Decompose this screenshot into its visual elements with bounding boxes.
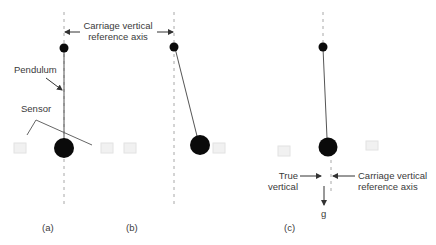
true-vertical-line2: vertical xyxy=(258,181,298,192)
sensor-label: Sensor xyxy=(21,103,51,114)
pendulum-label: Pendulum xyxy=(14,64,57,75)
pendulum-diagram: Carriage vertical reference axis Pendulu… xyxy=(0,0,436,245)
true-vertical-line1: True xyxy=(258,170,298,181)
pendulum-rod-b xyxy=(175,48,197,136)
pivot-a xyxy=(60,44,69,53)
caption-b: (b) xyxy=(126,222,138,233)
carriage-axis-line1: Carriage vertical xyxy=(358,170,427,181)
pendulum-rod-c xyxy=(323,48,327,138)
pivot-b xyxy=(170,43,179,52)
true-vertical-label: True vertical xyxy=(258,170,298,192)
carriage-axis-line2: reference axis xyxy=(358,181,427,192)
top-axis-label-line2: reference axis xyxy=(78,31,158,42)
caption-c: (c) xyxy=(284,222,295,233)
gravity-label: g xyxy=(321,208,326,219)
mass-b xyxy=(190,135,210,155)
diagram-canvas xyxy=(0,0,436,245)
pendulum-pointer xyxy=(46,78,62,90)
mass-a xyxy=(54,138,74,158)
pivot-c xyxy=(319,43,328,52)
mass-c xyxy=(319,138,338,157)
caption-a: (a) xyxy=(42,222,54,233)
top-axis-label: Carriage vertical reference axis xyxy=(78,20,158,42)
top-axis-label-line1: Carriage vertical xyxy=(78,20,158,31)
carriage-axis-label-c: Carriage vertical reference axis xyxy=(358,170,427,192)
